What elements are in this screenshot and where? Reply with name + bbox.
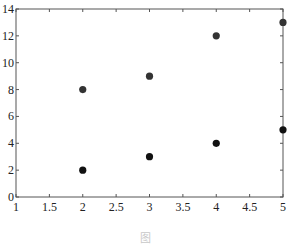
x-tick-label: 3.5: [175, 200, 190, 214]
y-tick-label: 10: [2, 56, 14, 70]
y-tick-label: 0: [8, 190, 14, 204]
x-tick-label: 4: [213, 200, 219, 214]
data-point: [79, 167, 86, 174]
y-tick-label: 12: [2, 29, 14, 43]
data-point: [79, 86, 86, 93]
y-tick-label: 2: [8, 163, 14, 177]
data-point: [279, 126, 286, 133]
x-tick-label: 1.5: [42, 200, 57, 214]
y-tick-label: 4: [8, 136, 14, 150]
x-tick-label: 2.5: [109, 200, 124, 214]
data-point: [146, 73, 153, 80]
x-tick-label: 2: [80, 200, 86, 214]
x-tick-label: 3: [147, 200, 153, 214]
figure-caption: 图: [0, 229, 291, 245]
data-point: [213, 140, 220, 147]
y-tick-label: 8: [8, 83, 14, 97]
plot-area: [16, 9, 283, 197]
data-point: [213, 32, 220, 39]
data-point: [279, 19, 286, 26]
data-point: [146, 153, 153, 160]
x-tick-label: 4.5: [242, 200, 257, 214]
x-tick-label: 5: [280, 200, 286, 214]
y-tick-label: 14: [2, 2, 14, 16]
y-tick-label: 6: [8, 109, 14, 123]
